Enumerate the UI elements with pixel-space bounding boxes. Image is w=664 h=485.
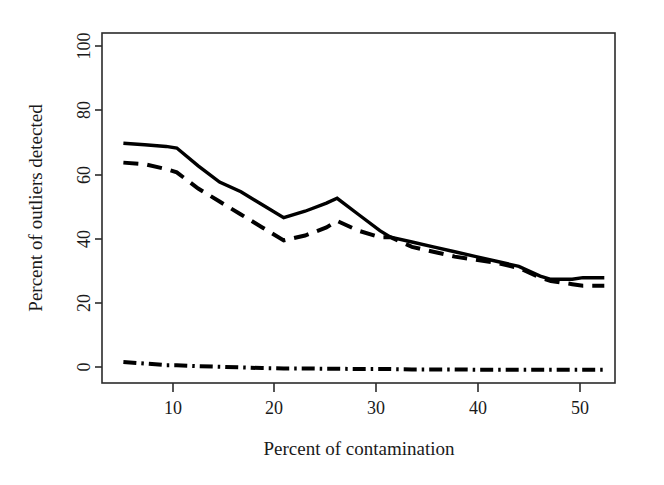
chart-figure: 0 20 40 60 80 100 10 20 30 40 50 Percent… [0, 0, 664, 485]
y-tick-label-0: 0 [74, 363, 94, 372]
y-tick-label-40: 40 [74, 230, 94, 248]
y-axis-title: Percent of outliers detected [25, 104, 46, 312]
line-chart: 0 20 40 60 80 100 10 20 30 40 50 Percent… [0, 0, 664, 485]
x-axis-tick-labels: 10 20 30 40 50 [164, 398, 589, 418]
y-tick-label-60: 60 [74, 166, 94, 184]
x-tick-label-10: 10 [164, 398, 182, 418]
plot-frame [102, 33, 615, 383]
x-axis-ticks [173, 383, 580, 392]
y-axis-tick-labels: 0 20 40 60 80 100 [74, 33, 94, 372]
x-axis-title: Percent of contamination [264, 438, 455, 459]
x-tick-label-30: 30 [367, 398, 385, 418]
x-tick-label-40: 40 [469, 398, 487, 418]
y-tick-label-80: 80 [74, 101, 94, 119]
x-tick-label-20: 20 [265, 398, 283, 418]
y-tick-label-100: 100 [74, 33, 94, 60]
y-axis-ticks [95, 46, 102, 367]
series-dashed-series [123, 163, 604, 286]
series-dash-dot-series [123, 362, 604, 370]
series-solid-series [123, 143, 604, 279]
data-series-group [123, 143, 604, 370]
y-tick-label-20: 20 [74, 294, 94, 312]
x-tick-label-50: 50 [571, 398, 589, 418]
